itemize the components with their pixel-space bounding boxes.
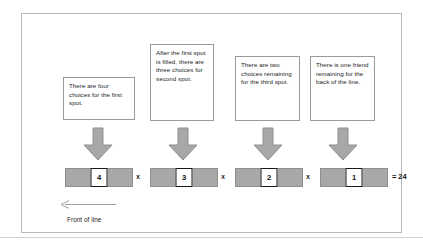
down-arrow-icon-1	[83, 127, 113, 161]
slot-value-4: 1	[346, 168, 363, 187]
down-arrow-icon-2	[168, 127, 198, 161]
slot-value-3: 2	[261, 168, 278, 187]
slot-bar-1: 4	[65, 168, 133, 187]
slot-bar-2: 3	[150, 168, 218, 187]
product-row: 4 x 3 x 2 x 1 = 24	[22, 168, 423, 188]
slot-value-1: 4	[91, 168, 108, 187]
multiplication-sign-3: x	[303, 173, 313, 180]
callout-box-second-spot: After the first spot is filled, there ar…	[150, 44, 214, 121]
figure-root: There are four choices for the first spo…	[0, 0, 423, 245]
front-of-line-label: Front of line	[67, 216, 101, 223]
callout-box-third-spot: There are two choices remaining for the …	[235, 56, 300, 121]
figure-frame: There are four choices for the first spo…	[21, 13, 402, 233]
multiplication-sign-1: x	[133, 173, 143, 180]
down-arrow-icon-3	[253, 127, 283, 161]
callout-box-fourth-spot: There is one friend remaining for the ba…	[310, 56, 375, 121]
product-result: = 24	[392, 172, 407, 181]
slot-bar-3: 2	[235, 168, 303, 187]
callout-box-first-spot: There are four choices for the first spo…	[63, 77, 135, 120]
multiplication-sign-2: x	[218, 173, 228, 180]
left-arrow-icon-front-of-line	[60, 200, 117, 209]
bottom-divider	[0, 237, 423, 238]
slot-bar-4: 1	[320, 168, 388, 187]
down-arrow-icon-4	[328, 127, 358, 161]
slot-value-2: 3	[176, 168, 193, 187]
